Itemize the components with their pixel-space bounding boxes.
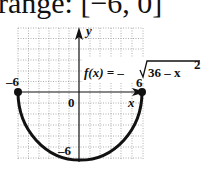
y-axis-label: y [84, 23, 92, 38]
svg-text:2: 2 [194, 57, 201, 72]
x-axis-label: x [127, 95, 135, 110]
svg-text:f(x) = –: f(x) = – [84, 65, 124, 80]
tick-label-y-bottom: –6 [57, 143, 72, 158]
tick-label-x-right: 6 [136, 75, 143, 90]
graph: y x –6 6 0 –6 f(x) = – 36 – x 2 [0, 0, 202, 169]
tick-label-x-left: –6 [5, 74, 20, 89]
function-curve [18, 92, 142, 160]
svg-text:36 – x: 36 – x [148, 65, 181, 80]
tick-label-origin: 0 [68, 95, 75, 110]
endpoint-left [14, 88, 22, 96]
